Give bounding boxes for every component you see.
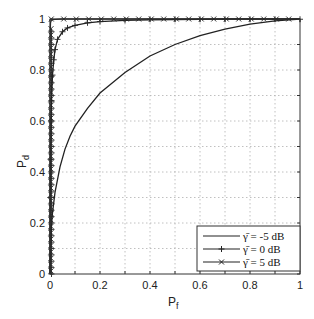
- svg-text:γ̄ = 0 dB: γ̄ = 0 dB: [242, 243, 281, 255]
- x-tick-label: 1: [297, 279, 303, 291]
- y-tick-label: 1: [39, 13, 45, 25]
- y-tick-label: 0: [39, 268, 45, 280]
- x-tick-label: 0: [47, 279, 53, 291]
- y-tick-label: 0.6: [30, 115, 45, 127]
- y-tick-label: 0.2: [30, 217, 45, 229]
- x-tick-label: 0.8: [242, 279, 257, 291]
- svg-text:γ̄ = -5 dB: γ̄ = -5 dB: [242, 230, 284, 242]
- x-tick-label: 0.2: [92, 279, 107, 291]
- x-tick-label: 0.6: [192, 279, 207, 291]
- roc-chart: 00.20.40.60.8100.20.40.60.81 Pf Pd γ̄ = …: [0, 0, 314, 319]
- x-axis-label: Pf: [168, 295, 179, 311]
- x-tick-label: 0.4: [142, 279, 157, 291]
- y-axis-label: Pd: [15, 155, 31, 168]
- y-tick-label: 0.4: [30, 166, 45, 178]
- legend: γ̄ = -5 dB γ̄ = 0 dB γ̄ = 5 dB: [197, 226, 300, 271]
- svg-text:γ̄ = 5 dB: γ̄ = 5 dB: [242, 256, 281, 268]
- y-tick-label: 0.8: [30, 64, 45, 76]
